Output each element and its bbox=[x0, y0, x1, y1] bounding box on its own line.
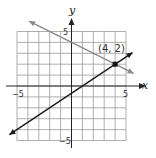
y-tick-label-min: −5 bbox=[59, 137, 71, 146]
y-axis-label: y bbox=[68, 4, 76, 17]
y-axis-arrow-icon bbox=[69, 18, 75, 25]
axes bbox=[6, 18, 146, 148]
coordinate-plane-chart: y x −5 5 5 −5 (4, 2) bbox=[0, 0, 156, 158]
x-tick-label-max: 5 bbox=[123, 90, 128, 99]
line-arrow-icon bbox=[9, 129, 16, 135]
line-arrow-icon bbox=[126, 53, 133, 59]
x-axis-label: x bbox=[142, 79, 149, 92]
intersection-point-marker bbox=[113, 62, 118, 67]
y-tick-label-max: 5 bbox=[63, 28, 68, 37]
x-tick-label-min: −5 bbox=[12, 90, 24, 99]
intersection-label: (4, 2) bbox=[98, 43, 125, 54]
